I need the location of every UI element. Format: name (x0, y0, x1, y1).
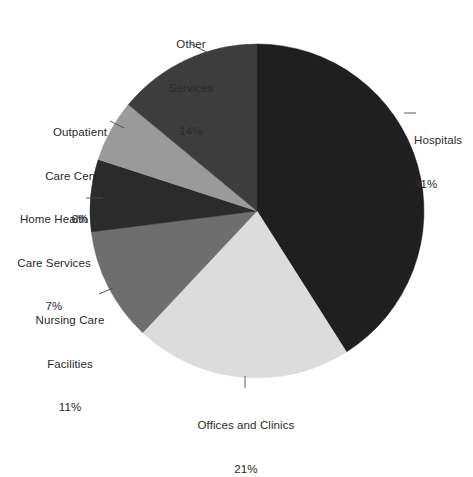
label-outpatient-line1: Outpatient (26, 125, 134, 140)
label-offices-percent: 21% (186, 462, 306, 477)
label-home-health-line2: Care Services (4, 256, 104, 271)
label-other-services-line2: Services (136, 81, 246, 96)
label-hospitals-line1: Hospitals (414, 133, 472, 148)
label-other-services: Other Services 14% (136, 8, 246, 168)
label-hospitals-percent: 41% (414, 177, 472, 192)
label-nursing-line1: Nursing Care (20, 313, 120, 328)
label-nursing-line2: Facilities (20, 357, 120, 372)
label-offices-line1: Offices and Clinics (186, 418, 306, 433)
label-offices-and-clinics: Offices and Clinics 21% (186, 389, 306, 477)
label-other-services-percent: 14% (136, 124, 246, 139)
label-other-services-line1: Other (136, 37, 246, 52)
label-nursing-percent: 11% (20, 400, 120, 415)
label-nursing-care-facilities: Nursing Care Facilities 11% (20, 284, 120, 444)
label-outpatient-line2: Care Centers (26, 169, 134, 184)
label-hospitals: Hospitals 41% (414, 104, 472, 220)
label-home-health-line1: Home Health (4, 212, 104, 227)
